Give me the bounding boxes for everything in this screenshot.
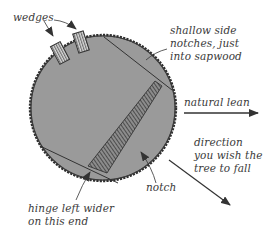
notch-label: notch <box>146 181 176 194</box>
natural-lean-label: natural lean <box>184 96 250 109</box>
side-notches-line-2: notches, just <box>170 37 242 50</box>
hinge-line-1: hinge left wider <box>28 202 114 215</box>
wedges-label: wedges <box>13 11 54 24</box>
felling-diagram: wedges shallow side notches, just into s… <box>0 0 275 230</box>
wedges-leader-2 <box>54 20 76 29</box>
fall-direction-line-1: direction <box>194 136 263 149</box>
hinge-line-2: on this end <box>28 215 114 228</box>
side-notches-line-1: shallow side <box>170 24 242 37</box>
side-notches-line-3: into sapwood <box>170 50 242 63</box>
hinge-label: hinge left wider on this end <box>28 202 114 228</box>
fall-direction-label: direction you wish the tree to fall <box>194 136 263 175</box>
side-notches-label: shallow side notches, just into sapwood <box>170 24 242 63</box>
fall-direction-line-2: you wish the <box>194 149 263 162</box>
fall-direction-line-3: tree to fall <box>194 162 263 175</box>
